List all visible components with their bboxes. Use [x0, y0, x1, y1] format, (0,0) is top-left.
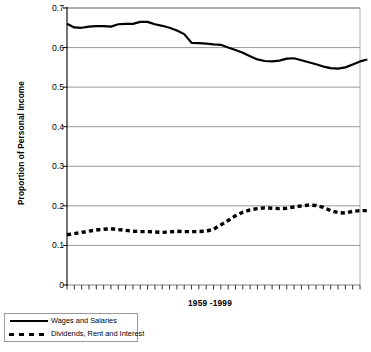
y-axis-tick-label: 0.1: [18, 240, 64, 250]
legend-swatch-solid-icon: [5, 315, 51, 327]
y-axis-tick-label: 0.6: [18, 43, 64, 53]
y-axis-tick-label: 0.3: [18, 161, 64, 171]
chart-legend: Wages and Salaries Dividends, Rent and I…: [4, 313, 138, 342]
y-axis-tick-labels: 0.70.60.50.40.30.20.10: [14, 0, 64, 290]
chart-container: Proportion of Personal Income 0.70.60.50…: [0, 0, 371, 352]
legend-label-dividends: Dividends, Rent and Interest: [51, 328, 144, 340]
y-axis-tick-label: 0.5: [18, 82, 64, 92]
y-axis-tick-label: 0: [18, 280, 64, 290]
series-line-2: [67, 205, 367, 235]
legend-item-dividends: Dividends, Rent and Interest: [5, 327, 139, 341]
y-axis-tick-label: 0.4: [18, 122, 64, 132]
series-line-1: [67, 22, 367, 69]
x-axis-title: 1959 -1999: [140, 298, 280, 308]
legend-item-wages: Wages and Salaries: [5, 314, 139, 328]
legend-swatch-dashed-icon: [5, 328, 51, 340]
y-axis-tick-label: 0.2: [18, 201, 64, 211]
legend-label-wages: Wages and Salaries: [51, 315, 117, 327]
y-axis-tick-label: 0.7: [18, 3, 64, 13]
